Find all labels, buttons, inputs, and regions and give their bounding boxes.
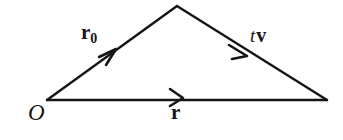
point-label-origin: O [28, 101, 45, 124]
vector-label-tv-vector: v [256, 24, 266, 46]
vector-label-r0: r0 [81, 22, 97, 43]
vector-label-tv: tv [250, 25, 266, 45]
vector-label-r0-subscript: 0 [90, 31, 97, 46]
vector-line-tv [177, 6, 327, 100]
vector-label-r: r [171, 102, 180, 123]
vector-label-r0-base: r [81, 20, 90, 44]
vector-diagram: r0 tv r O [0, 0, 343, 140]
